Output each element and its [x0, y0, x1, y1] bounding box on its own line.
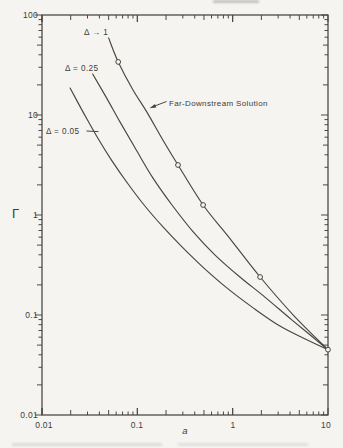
log-log-chart: Δ → 1 Δ = 0.25 Δ = 0.05 Far-Downstream S…: [0, 0, 343, 448]
solution-curves: [70, 38, 328, 350]
data-point-marker: [176, 163, 181, 168]
curve-delta-1: [109, 38, 328, 350]
plot-frame: [42, 15, 328, 415]
data-point-marker: [201, 203, 206, 208]
scanned-figure: Δ → 1 Δ = 0.25 Δ = 0.05 Far-Downstream S…: [0, 0, 343, 448]
label-delta-025: Δ = 0.25: [65, 64, 99, 73]
y-tick-100: 100: [23, 10, 38, 20]
x-tick-1: 1: [230, 420, 235, 430]
data-point-marker: [326, 347, 331, 352]
data-point-marker: [258, 275, 263, 280]
x-axis-title: a: [182, 425, 187, 436]
data-point-marker: [116, 60, 121, 65]
axis-ticks: [35, 15, 328, 415]
x-tick-0_01: 0.01: [35, 420, 53, 430]
label-delta-005: Δ = 0.05: [46, 127, 80, 136]
y-tick-1: 1: [33, 210, 38, 220]
x-tick-0_1: 0.1: [131, 420, 144, 430]
delta-005-pointer-line: [87, 131, 99, 132]
x-tick-10: 10: [321, 420, 331, 430]
y-tick-10: 10: [28, 110, 38, 120]
label-far-downstream: Far-Downstream Solution: [169, 99, 268, 108]
label-delta-1: Δ → 1: [84, 28, 108, 37]
y-tick-0_1: 0.1: [25, 310, 38, 320]
y-tick-0_01: 0.01: [20, 410, 38, 420]
far-downstream-arrow: [150, 102, 167, 109]
curve-delta-025: [93, 74, 328, 350]
y-axis-title: Γ: [12, 206, 19, 221]
